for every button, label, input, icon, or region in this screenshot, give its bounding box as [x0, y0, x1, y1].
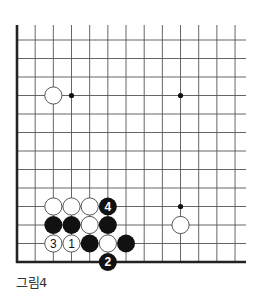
- white-stone: [99, 235, 116, 252]
- star-point-icon: [69, 93, 74, 98]
- black-stone: [117, 235, 135, 253]
- white-stone: [45, 87, 62, 104]
- black-stone: [81, 235, 99, 253]
- white-stone: [81, 216, 98, 233]
- white-stone: [45, 198, 62, 215]
- move-number: 4: [105, 200, 112, 214]
- move-number: 1: [68, 237, 75, 251]
- white-stone: [63, 198, 80, 215]
- star-point-icon: [178, 204, 183, 209]
- star-point-icon: [178, 93, 183, 98]
- go-board: 4312: [0, 0, 261, 293]
- white-stone: [81, 198, 98, 215]
- figure-caption: 그림4: [16, 272, 47, 291]
- white-stone: 3: [45, 235, 62, 252]
- white-stone: [172, 216, 189, 233]
- black-stone: [99, 216, 117, 234]
- move-number: 3: [50, 237, 57, 251]
- white-stone: 1: [63, 235, 80, 252]
- black-stone: [44, 216, 62, 234]
- black-stone: [63, 216, 81, 234]
- black-stone: 2: [99, 253, 117, 271]
- move-number: 2: [105, 255, 112, 269]
- black-stone: 4: [99, 198, 117, 216]
